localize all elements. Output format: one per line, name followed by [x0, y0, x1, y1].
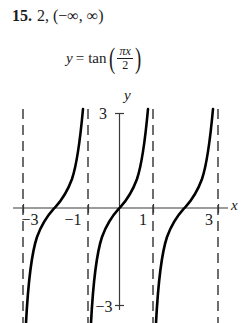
equation-display: y = tan ( πx 2 ): [66, 45, 143, 71]
x-tick-label-pos1: 1: [139, 211, 147, 228]
equation-lhs: y: [66, 49, 73, 67]
equation-function-name: tan: [88, 49, 106, 67]
fraction-numerator: πx: [117, 45, 132, 58]
equation-open-paren: (: [109, 47, 115, 69]
x-axis-label: x: [230, 197, 238, 213]
exercise-answer-line: 15.2, (−∞, ∞): [12, 6, 104, 26]
graph-canvas: y x 3 −3 −3 −1 1 3: [0, 85, 251, 323]
tangent-graph: y x 3 −3 −3 −1 1 3: [0, 85, 251, 323]
fraction-denominator: 2: [117, 58, 132, 72]
x-tick-label-pos3: 3: [205, 211, 213, 228]
axes-group: [13, 113, 228, 310]
equation-close-paren: ): [135, 47, 141, 69]
x-tick-label-neg3: −3: [21, 211, 38, 228]
exercise-number: 15.: [12, 7, 32, 24]
y-tick-label-neg3: −3: [95, 298, 112, 315]
equation-fraction: πx 2: [117, 45, 132, 71]
figure-page: 15.2, (−∞, ∞) y = tan ( πx 2 ): [0, 0, 251, 323]
y-axis-label: y: [122, 87, 131, 103]
label-group: y x 3 −3 −3 −1 1 3: [21, 87, 238, 315]
exercise-answer-value: 2, (−∞, ∞): [37, 7, 104, 24]
asymptote-group: [23, 109, 218, 323]
equation-equals-sign: =: [76, 49, 84, 67]
y-tick-label-3: 3: [99, 105, 107, 122]
x-tick-label-neg1: −1: [64, 211, 81, 228]
